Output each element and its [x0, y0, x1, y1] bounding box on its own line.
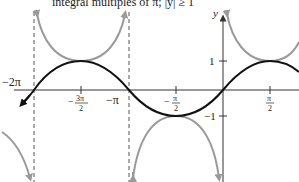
svg-text:2: 2	[79, 104, 83, 113]
label-y-neg-one: −1	[204, 110, 216, 122]
label-pi-half: π 2	[266, 94, 274, 113]
label-y-axis: y	[212, 7, 218, 19]
svg-text:3π: 3π	[76, 94, 84, 103]
trig-graph: −2π − 3π 2 −π − π 2 π 2 1 −1 y	[0, 0, 299, 182]
svg-text:−: −	[68, 96, 74, 107]
csc-branch-4	[227, 14, 299, 61]
svg-text:−: −	[164, 96, 170, 107]
csc-branch-3	[133, 116, 219, 178]
sine-curve	[24, 61, 299, 116]
label-neg-two-pi: −2π	[2, 75, 21, 89]
label-neg-three-pi-half: − 3π 2	[68, 94, 88, 113]
label-neg-pi-half: − π 2	[164, 94, 180, 113]
label-y-one: 1	[209, 55, 215, 67]
svg-text:2: 2	[268, 104, 272, 113]
csc-branch-1	[2, 132, 30, 178]
csc-branch-2	[37, 14, 125, 61]
svg-text:2: 2	[174, 104, 178, 113]
svg-text:π: π	[173, 94, 177, 103]
svg-text:π: π	[267, 94, 271, 103]
label-neg-pi: −π	[106, 93, 119, 107]
